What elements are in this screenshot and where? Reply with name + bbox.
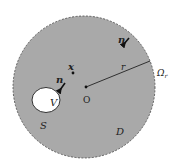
radius-label: r: [121, 62, 126, 72]
hole-boundary-label: S: [40, 120, 47, 131]
normal-inner-label: n: [56, 74, 63, 85]
origin-dot: [85, 86, 88, 89]
outer-domain-D: [13, 16, 155, 158]
normal-outer-label: n: [118, 34, 125, 45]
origin-label: O: [83, 95, 90, 105]
point-x-dot: [72, 72, 75, 75]
point-x-label: x: [67, 61, 75, 72]
domain-label: D: [115, 126, 124, 137]
outer-boundary-label: Ωr: [156, 68, 168, 79]
diagram: n n x r Ωr O V S D: [0, 0, 181, 164]
